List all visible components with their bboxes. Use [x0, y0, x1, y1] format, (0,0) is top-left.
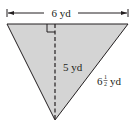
- side-label: 6 1 2 yd: [97, 74, 122, 87]
- svg-text:6: 6: [97, 75, 103, 87]
- height-label: 5 yd: [63, 61, 83, 73]
- svg-text:1: 1: [104, 74, 107, 80]
- svg-text:yd: yd: [110, 75, 122, 87]
- base-label: 6 yd: [51, 7, 71, 19]
- triangle-diagram: 6 yd 5 yd 6 1 2 yd: [0, 0, 134, 127]
- svg-text:2: 2: [104, 81, 107, 87]
